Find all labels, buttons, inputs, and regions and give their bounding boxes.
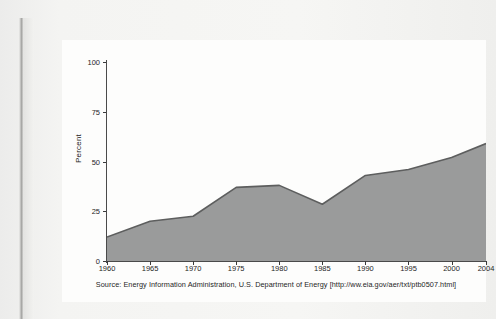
y-axis-tick-label: 50	[74, 158, 100, 167]
x-axis-tick-label: 1980	[259, 264, 299, 273]
scanned-page: Percent 0255075100 196019651970197519801…	[0, 0, 496, 319]
x-axis-tick-label: 1965	[130, 264, 170, 273]
figure-card: Percent 0255075100 196019651970197519801…	[62, 40, 486, 302]
area-fill	[107, 144, 486, 261]
x-axis-tick-label: 1975	[216, 264, 256, 273]
plot-area	[107, 62, 486, 261]
y-axis-tick-label: 75	[74, 108, 100, 117]
x-axis-tick-label: 1960	[87, 264, 127, 273]
x-axis-tick-label: 1985	[302, 264, 342, 273]
x-axis-tick-label: 1970	[173, 264, 213, 273]
x-axis-tick-label: 1990	[345, 264, 385, 273]
area-series-svg	[107, 62, 486, 261]
x-axis-tick-label: 1995	[388, 264, 428, 273]
y-axis-tick-label: 25	[74, 207, 100, 216]
y-axis-tick-label: 100	[74, 58, 100, 67]
x-axis-tick-label: 2004	[466, 264, 496, 273]
source-note: Source: Energy Information Administratio…	[68, 280, 484, 289]
x-axis-tick-labels: 1960196519701975198019851990199520002004	[62, 264, 486, 278]
area-chart: Percent 0255075100 196019651970197519801…	[62, 40, 486, 302]
book-spine-gradient	[24, 18, 34, 319]
